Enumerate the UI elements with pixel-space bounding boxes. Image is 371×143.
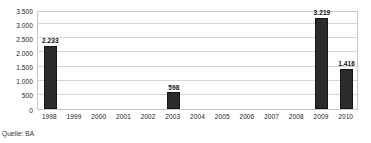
bar-chart-figure: 05001.0001.5002.0002.5003.0003.500 2.233… [0,0,371,143]
x-tick-label-2001: 2001 [116,113,131,121]
bar-value-label-2003: 598 [168,84,179,91]
bar-2010[interactable] [340,69,353,109]
y-axis: 05001.0001.5002.0002.5003.0003.500 [0,0,33,143]
x-tick-label-2002: 2002 [141,113,156,121]
bar-2009[interactable] [315,18,328,109]
x-tick-label-2003: 2003 [165,113,180,121]
x-axis: 1998199920002001200220032004200520062007… [37,113,358,125]
bars-layer: 2.2335983.2191.416 [38,12,357,109]
x-tick-label-2000: 2000 [91,113,106,121]
x-tick-label-2008: 2008 [289,113,304,121]
y-tick-label: 3.500 [0,8,33,15]
x-tick-label-2010: 2010 [338,113,353,121]
x-tick-label-1999: 1999 [67,113,82,121]
x-tick-label-2007: 2007 [264,113,279,121]
x-tick-label-2009: 2009 [314,113,329,121]
y-tick-label: 2.500 [0,36,33,43]
bar-2003[interactable] [167,92,180,109]
y-tick-label: 0 [0,107,33,114]
plot-area: 2.2335983.2191.416 [37,11,358,110]
bar-1998[interactable] [44,46,57,109]
x-tick-label-2005: 2005 [215,113,230,121]
bar-value-label-2010: 1.416 [338,60,355,67]
y-tick-label: 1.000 [0,78,33,85]
y-tick-label: 1.500 [0,64,33,71]
y-tick-label: 2.000 [0,50,33,57]
bar-value-label-2009: 3.219 [314,9,331,16]
x-tick-label-1998: 1998 [42,113,57,121]
source-caption: Quelle: BA [2,129,34,138]
y-tick-label: 500 [0,92,33,99]
x-tick-label-2004: 2004 [190,113,205,121]
bar-value-label-1998: 2.233 [42,37,59,44]
x-tick-label-2006: 2006 [239,113,254,121]
y-tick-label: 3.000 [0,22,33,29]
